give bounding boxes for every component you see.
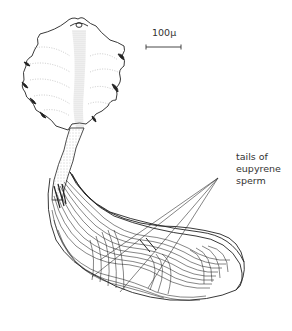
callout-line-3: sperm [236, 175, 281, 187]
callout-line-1: tails of [236, 151, 281, 163]
neck-stalk [52, 128, 84, 200]
scale-bar-label: 100μ [152, 27, 176, 39]
scale-bar [146, 45, 181, 50]
sperm-bundle-illustration: 100μ tails of eupyrene sperm [0, 0, 292, 331]
tails-callout-label: tails of eupyrene sperm [236, 151, 281, 187]
tail-strands [52, 180, 230, 301]
callout-line-2: eupyrene [236, 163, 281, 175]
